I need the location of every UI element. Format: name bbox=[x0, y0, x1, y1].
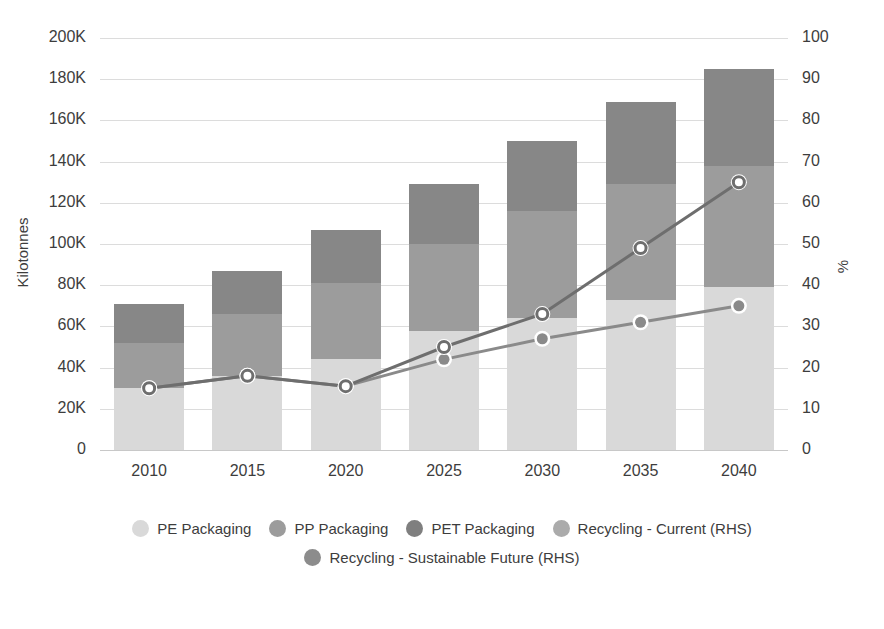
x-axis-tick-label: 2025 bbox=[395, 462, 493, 480]
y-axis-left-tick-label: 200K bbox=[0, 29, 86, 45]
y-axis-right-tick-label: 100 bbox=[802, 29, 884, 45]
y-axis-right-tick-label: 0 bbox=[802, 441, 884, 457]
legend-swatch-circle-icon bbox=[304, 549, 321, 566]
y-axis-left-tick-label: 100K bbox=[0, 235, 86, 251]
y-axis-left-tick-label: 140K bbox=[0, 153, 86, 169]
y-axis-left-tick-label: 60K bbox=[0, 317, 86, 333]
legend-item[interactable]: PET Packaging bbox=[406, 520, 534, 537]
y-axis-right-tick-label: 40 bbox=[802, 276, 884, 292]
y-axis-right-tick-label: 60 bbox=[802, 194, 884, 210]
y-axis-right-tick-label: 50 bbox=[802, 235, 884, 251]
y-axis-left-title: Kilotonnes bbox=[14, 193, 31, 313]
y-axis-left-tick-label: 80K bbox=[0, 276, 86, 292]
legend-row: PE PackagingPP PackagingPET PackagingRec… bbox=[0, 520, 884, 537]
data-point-marker[interactable] bbox=[733, 300, 744, 311]
data-point-marker[interactable] bbox=[439, 354, 450, 365]
chart-legend: PE PackagingPP PackagingPET PackagingRec… bbox=[0, 520, 884, 578]
legend-item-label: PET Packaging bbox=[431, 520, 534, 537]
plot-area: 020K40K60K80K100K120K140K160K180K200K 01… bbox=[100, 38, 788, 450]
chart-figure: Kilotonnes % 020K40K60K80K100K120K140K16… bbox=[0, 0, 884, 629]
y-axis-right-tick-label: 20 bbox=[802, 359, 884, 375]
legend-swatch-circle-icon bbox=[132, 520, 149, 537]
y-axis-right-tick-label: 90 bbox=[802, 70, 884, 86]
y-axis-right-tick-label: 10 bbox=[802, 400, 884, 416]
legend-item[interactable]: PP Packaging bbox=[269, 520, 388, 537]
legend-item[interactable]: Recycling - Current (RHS) bbox=[553, 520, 752, 537]
x-axis-tick-label: 2010 bbox=[100, 462, 198, 480]
gridline bbox=[100, 450, 788, 451]
legend-swatch-circle-icon bbox=[553, 520, 570, 537]
x-axis-tick-label: 2040 bbox=[690, 462, 788, 480]
legend-item-label: PE Packaging bbox=[157, 520, 251, 537]
x-axis-tick-label: 2020 bbox=[297, 462, 395, 480]
y-axis-left-tick-label: 20K bbox=[0, 400, 86, 416]
legend-swatch-circle-icon bbox=[406, 520, 423, 537]
y-axis-right-tick-label: 70 bbox=[802, 153, 884, 169]
y-axis-left-tick-label: 120K bbox=[0, 194, 86, 210]
legend-swatch-circle-icon bbox=[269, 520, 286, 537]
legend-item[interactable]: Recycling - Sustainable Future (RHS) bbox=[304, 549, 579, 566]
x-axis-tick-label: 2015 bbox=[198, 462, 296, 480]
y-axis-left-tick-label: 40K bbox=[0, 359, 86, 375]
line-series-container bbox=[100, 38, 788, 450]
data-point-marker[interactable] bbox=[537, 333, 548, 344]
y-axis-right-tick-label: 80 bbox=[802, 111, 884, 127]
data-point-marker[interactable] bbox=[635, 317, 646, 328]
legend-row: Recycling - Sustainable Future (RHS) bbox=[0, 549, 884, 566]
y-axis-left-tick-label: 160K bbox=[0, 111, 86, 127]
y-axis-right-tick-label: 30 bbox=[802, 317, 884, 333]
x-axis-tick-label: 2035 bbox=[592, 462, 690, 480]
y-axis-left-tick-label: 0 bbox=[0, 441, 86, 457]
legend-item-label: Recycling - Current (RHS) bbox=[578, 520, 752, 537]
y-axis-left-tick-label: 180K bbox=[0, 70, 86, 86]
legend-item-label: Recycling - Sustainable Future (RHS) bbox=[329, 549, 579, 566]
legend-item[interactable]: PE Packaging bbox=[132, 520, 251, 537]
legend-item-label: PP Packaging bbox=[294, 520, 388, 537]
x-axis-tick-label: 2030 bbox=[493, 462, 591, 480]
